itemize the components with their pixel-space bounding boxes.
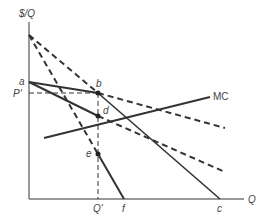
label-f: f [122,203,126,214]
economics-diagram: $/Q Q a P' b d e Q' f c MC [0,0,267,221]
y-axis-label: $/Q [18,8,35,19]
dashed-mr-upper [29,35,98,154]
x-axis-label: Q [248,194,256,205]
label-d: d [103,105,109,116]
mr-e-f [98,154,124,199]
dashed-mr-extension [98,116,225,172]
label-mc: MC [213,91,229,102]
point-e [96,152,101,157]
point-d [96,114,101,119]
label-a: a [19,76,25,87]
label-e: e [86,148,92,159]
label-b: b [96,78,102,89]
label-q-prime: Q' [93,203,104,214]
label-p-prime: P' [13,88,23,99]
label-c: c [217,203,222,214]
point-b [96,91,101,96]
